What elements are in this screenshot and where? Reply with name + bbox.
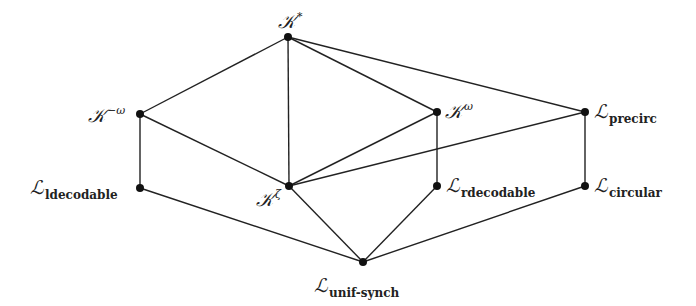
label-k-minus-omega: 𝒦−ω [88, 106, 125, 125]
label-l-unif-synch: ℒunif-synch [314, 276, 399, 295]
label-l-rdecodable: ℒrdecodable [446, 176, 535, 195]
node-Kminusomega [136, 110, 144, 118]
hasse-diagram [0, 0, 696, 306]
edge-Kstar-Kminusomega [140, 37, 288, 114]
node-Kstar [284, 33, 292, 41]
node-Lunifsynch [359, 258, 367, 266]
label-l-ldecodable: ℒldecodable [30, 178, 118, 197]
label-k-zeta: 𝒦ζ [256, 190, 281, 209]
edge-Lrdecodable-Lunifsynch [363, 186, 437, 262]
node-Lcircular [581, 182, 589, 190]
edge-Kminusomega-Kzeta [140, 114, 289, 186]
label-l-precirc: ℒprecirc [594, 102, 657, 121]
node-Lldecodable [136, 184, 144, 192]
node-Lprecirc [581, 108, 589, 116]
edge-Kstar-Komega [288, 37, 437, 112]
edge-Komega-Kzeta [289, 112, 437, 186]
node-Kzeta [285, 182, 293, 190]
edges [140, 37, 585, 262]
edge-Kstar-Kzeta [288, 37, 289, 186]
edge-Lldecodable-Lunifsynch [140, 188, 363, 262]
node-Komega [433, 108, 441, 116]
edge-Kzeta-Lunifsynch [289, 186, 363, 262]
label-k-star: 𝒦* [278, 12, 303, 31]
label-k-omega: 𝒦ω [445, 102, 473, 121]
edge-Kstar-Lprecirc [288, 37, 585, 112]
node-Lrdecodable [433, 182, 441, 190]
label-l-circular: ℒcircular [594, 176, 662, 195]
